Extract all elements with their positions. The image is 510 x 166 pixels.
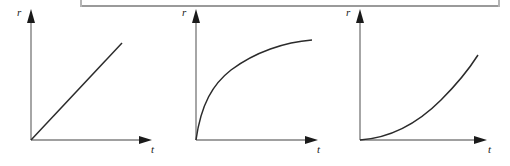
y-axis-arrowhead bbox=[27, 9, 35, 23]
x-axis-arrowhead bbox=[474, 136, 487, 144]
x-axis-label: t bbox=[488, 143, 492, 155]
chart-panel-linear: r t bbox=[0, 0, 170, 166]
chart-panel-exponential: r t bbox=[329, 0, 510, 166]
data-curve-linear bbox=[31, 43, 122, 140]
linear-plot-svg: r t bbox=[0, 0, 170, 166]
y-axis-label: r bbox=[17, 6, 22, 18]
exponential-plot-svg: r t bbox=[329, 0, 510, 166]
chart-panel-logarithmic: r t bbox=[165, 0, 340, 166]
y-axis-label: r bbox=[182, 6, 187, 18]
x-axis-label: t bbox=[317, 143, 321, 155]
logarithmic-plot-svg: r t bbox=[165, 0, 340, 166]
data-curve-exponential bbox=[360, 55, 478, 140]
y-axis-arrowhead bbox=[192, 9, 200, 23]
y-axis-arrowhead bbox=[356, 9, 364, 23]
data-curve-logarithmic bbox=[196, 40, 312, 140]
y-axis-label: r bbox=[346, 6, 351, 18]
x-axis-label: t bbox=[151, 143, 155, 155]
figure-root: r t r t r bbox=[0, 0, 510, 166]
